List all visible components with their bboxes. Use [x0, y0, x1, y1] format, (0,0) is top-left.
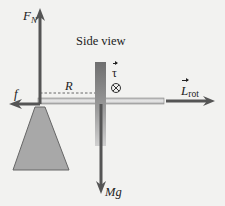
angular-momentum-label: Lrot	[181, 84, 199, 100]
normal-force-label: FN	[23, 9, 37, 25]
torque-symbol: τ	[112, 66, 117, 80]
into-page-circle-x-icon	[112, 84, 121, 93]
gyroscope-diagram	[0, 0, 225, 206]
torque-label: τ	[112, 67, 117, 79]
angular-momentum-symbol: L	[181, 83, 188, 98]
weight-label: Mg	[105, 186, 122, 199]
friction-label: f	[14, 87, 18, 100]
pedestal	[13, 107, 69, 170]
side-view-label: Side view	[76, 35, 126, 48]
radius-label: R	[65, 80, 73, 93]
